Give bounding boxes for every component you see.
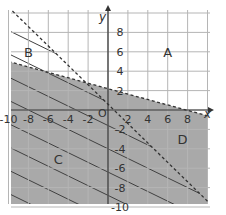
y-tick-label: -6 xyxy=(115,162,126,175)
y-tick-label: -4 xyxy=(115,143,126,156)
x-tick-label: 8 xyxy=(184,113,191,126)
x-axis-label: x xyxy=(203,107,212,121)
hatch-line xyxy=(0,0,226,44)
hatch-line xyxy=(0,0,226,67)
origin-label: O xyxy=(98,107,107,120)
x-tick-label: -8 xyxy=(23,113,34,126)
y-tick-label: 6 xyxy=(117,46,124,59)
x-tick-label: 6 xyxy=(164,113,171,126)
y-tick-label: -2 xyxy=(115,123,126,136)
x-tick-label: -2 xyxy=(83,113,94,126)
inequality-graph: -10-8-6-4-224688642-2-4-6-8-10 ABCD x y … xyxy=(0,0,226,215)
y-axis-label: y xyxy=(98,10,107,24)
y-tick-label: -10 xyxy=(111,201,129,214)
region-label-a: A xyxy=(163,45,172,60)
x-tick-label: 4 xyxy=(144,113,151,126)
region-label-c: C xyxy=(54,152,63,167)
x-tick-label: -6 xyxy=(43,113,54,126)
region-label-b: B xyxy=(24,45,33,60)
y-tick-label: 8 xyxy=(117,26,124,39)
x-tick-label: -4 xyxy=(63,113,74,126)
y-tick-label: 2 xyxy=(117,85,124,98)
hatch-line xyxy=(0,0,226,21)
y-tick-label: -8 xyxy=(115,182,126,195)
region-label-d: D xyxy=(178,132,188,147)
x-tick-label: -10 xyxy=(0,113,17,126)
y-tick-label: 4 xyxy=(117,65,124,78)
